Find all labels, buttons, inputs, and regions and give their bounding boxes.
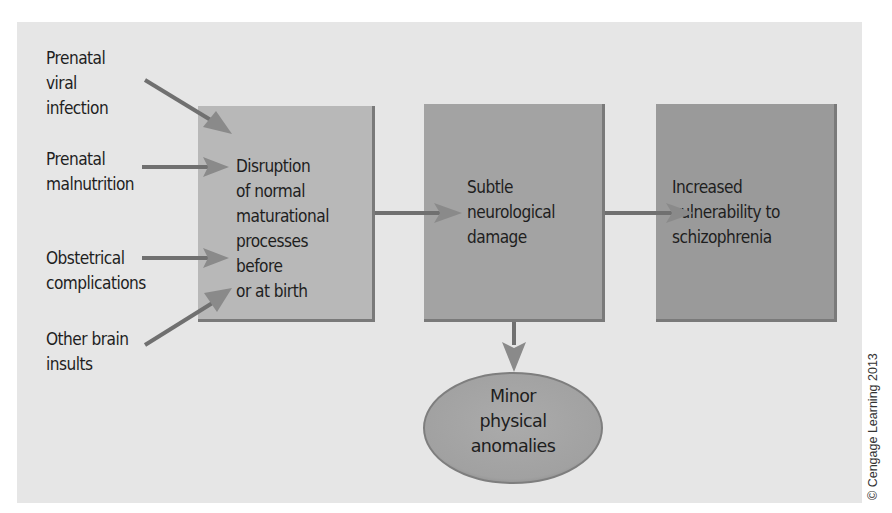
arrow-obstetrical-to-disruption [142,248,229,268]
copyright-notice: © Cengage Learning 2013 [866,353,880,500]
arrow-disruption-to-neurological-damage [375,203,462,223]
arrow-viral-to-disruption [145,80,232,134]
arrow-neurological-damage-to-vulnerability [605,203,694,223]
arrow-malnutrition-to-disruption [142,157,229,177]
arrow-neurological-damage-to-anomalies [502,322,526,372]
outcome-anomalies-label: Minor physical anomalies [424,384,602,459]
arrow-brain-insults-to-disruption [145,288,232,345]
